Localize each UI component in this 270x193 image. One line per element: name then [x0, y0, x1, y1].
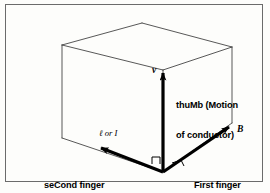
- current-caption: seCond finger (Current, if any): [44, 159, 111, 193]
- field-caption-line1: First finger: [194, 180, 241, 190]
- right-angle-mark-left: [152, 157, 160, 164]
- cube-edge-top-back-left: [62, 23, 142, 45]
- figure-container: v B ℓ or I thuMb (Motion of conductor) s…: [0, 0, 270, 193]
- motion-caption: thuMb (Motion of conductor): [176, 79, 238, 161]
- current-caption-line1: seCond finger: [44, 180, 111, 190]
- cube-edge-top-front-right: [163, 47, 232, 70]
- cube-edge-top-back-right: [142, 23, 232, 47]
- motion-caption-line2: of conductor): [176, 130, 238, 140]
- motion-vector-symbol: v: [152, 65, 156, 76]
- field-caption: First finger (Field): [194, 159, 241, 193]
- current-vector-symbol: ℓ or I: [99, 129, 117, 139]
- motion-caption-line1: thuMb (Motion: [176, 100, 238, 110]
- cube-edge-top-front-left: [62, 45, 163, 70]
